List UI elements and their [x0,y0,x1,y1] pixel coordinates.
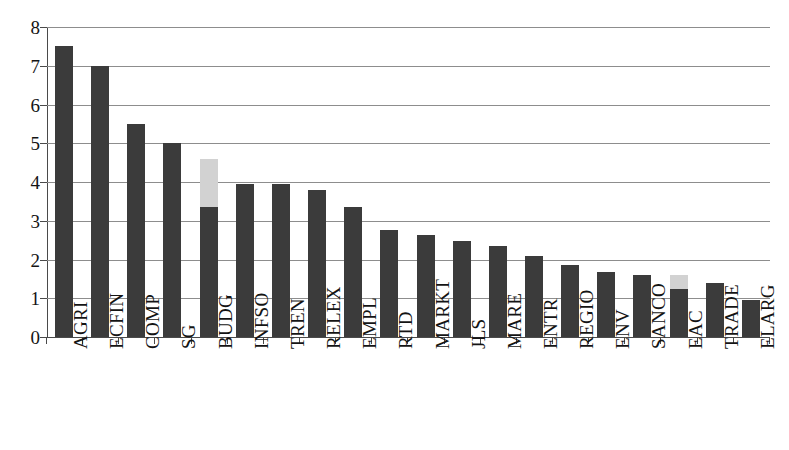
x-axis-label-rtd: RTD [396,311,415,349]
gridline [47,221,770,222]
y-axis-tick-mark [40,66,47,67]
y-axis-tick-mark [40,27,47,28]
bar-jls [453,27,471,337]
bar-agri [55,27,73,337]
gridline [47,66,770,67]
y-axis-tick-label: 0 [31,328,41,347]
x-axis-label-tren: TREN [288,298,307,349]
y-axis-tick-label: 4 [31,173,41,192]
x-axis-label-sanco: SANCO [649,283,668,349]
y-axis-tick-label: 3 [31,211,41,230]
y-axis-tick-label: 6 [31,95,41,114]
x-axis-label-comp: COMP [143,294,162,349]
y-axis-tick-mark [40,182,47,183]
x-axis-label-env: ENV [613,309,632,349]
bar-sg [163,27,181,337]
x-axis-label-markt: MARKT [433,279,452,349]
y-axis-tick-mark [40,143,47,144]
gridline [47,260,770,261]
y-axis-tick-label: 8 [31,18,41,37]
bar-ecfin [91,27,109,337]
gridline [47,143,770,144]
gridline [47,105,770,106]
x-axis-label-regio: REGIO [577,289,596,349]
bar-tren [272,27,290,337]
y-axis-tick-mark [40,298,47,299]
gridline [47,182,770,183]
bar-budg [200,27,218,337]
bar-infso [236,27,254,337]
gridline [47,27,770,28]
bar-mare [489,27,507,337]
x-axis-label-entr: ENTR [541,298,560,349]
bar-chart: 876543210 AGRIECFINCOMPSGBUDGINFSOTRENRE… [0,0,789,450]
x-axis-label-empl: EMPL [360,297,379,349]
x-axis-label-budg: BUDG [216,294,235,349]
bar-segment-secondary [200,159,218,207]
x-axis-label-jls: JLS [469,319,488,349]
x-axis-label-agri: AGRI [71,301,90,349]
x-axis-tick-mark [46,337,47,344]
y-axis-tick-label: 7 [31,56,41,75]
bar-rtd [380,27,398,337]
y-axis-tick-label: 5 [31,134,41,153]
bar-comp [127,27,145,337]
bar-env [597,27,615,337]
y-axis-tick-mark [40,260,47,261]
y-axis-tick-labels: 876543210 [0,0,40,450]
y-axis-tick-mark [40,105,47,106]
bar-segment-primary [55,46,73,337]
x-axis-label-elarg: ELARG [758,284,777,349]
bar-empl [344,27,362,337]
x-axis-label-ecfin: ECFIN [107,293,126,349]
bar-segment-primary [163,143,181,337]
bar-eac [670,27,688,337]
bar-segment-secondary [670,275,688,289]
x-axis-label-trade: TRADE [722,284,741,349]
y-axis-tick-label: 1 [31,289,41,308]
x-axis-label-infso: INFSO [252,293,271,349]
x-axis-label-sg: SG [179,324,198,349]
x-axis-label-relex: RELEX [324,286,343,349]
x-axis-label-mare: MARE [505,293,524,349]
x-axis-label-eac: EAC [686,310,705,349]
bar-entr [525,27,543,337]
y-axis-tick-label: 2 [31,250,41,269]
y-axis-tick-mark [40,221,47,222]
